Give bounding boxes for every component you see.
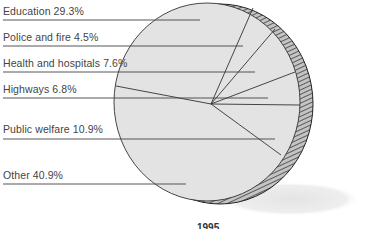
label-other: Other 40.9% (3, 169, 63, 181)
label-police-and-fire: Police and fire 4.5% (3, 31, 98, 43)
label-public-welfare: Public welfare 10.9% (3, 123, 103, 135)
year-label: 1995 (197, 222, 219, 229)
label-health-and-hospitals: Health and hospitals 7.6% (3, 57, 128, 69)
label-education: Education 29.3% (3, 5, 84, 17)
label-highways: Highways 6.8% (3, 83, 77, 95)
